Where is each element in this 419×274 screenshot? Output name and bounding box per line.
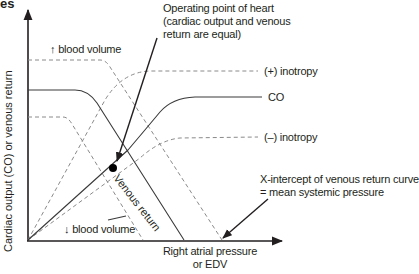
negative-inotropy-label: (–) inotropy <box>264 131 317 144</box>
decreased-blood-volume-leader <box>108 216 126 220</box>
operating-point-annotation-line1: Operating point of heart <box>163 2 274 15</box>
decreased-blood-volume-label: ↓ blood volume <box>64 223 135 236</box>
x-axis-label-line2: or EDV <box>150 258 270 271</box>
venous-return-curve <box>28 90 184 240</box>
cardiac-output-label: CO <box>268 91 284 104</box>
increased-blood-volume-curve <box>28 60 222 240</box>
operating-point-annotation-line3: return are equal) <box>163 28 241 41</box>
positive-inotropy-label: (+) inotropy <box>264 65 318 78</box>
negative-inotropy-curve <box>28 137 258 240</box>
increased-blood-volume-label: ↑ blood volume <box>50 43 121 56</box>
operating-point-annotation-line2: (cardiac output and venous <box>163 15 291 28</box>
x-intercept-annotation-line2: = mean systemic pressure <box>260 186 384 199</box>
x-axis-label-line1: Right atrial pressure <box>150 245 270 258</box>
title-fragment: es <box>0 0 14 11</box>
x-intercept-arrow <box>223 199 268 238</box>
operating-point-arrow <box>117 38 157 161</box>
x-intercept-annotation-line1: X-intercept of venous return curve <box>260 173 419 186</box>
operating-point-marker <box>109 164 117 172</box>
y-axis-label: Cardiac output (CO) or venous return <box>2 70 14 252</box>
